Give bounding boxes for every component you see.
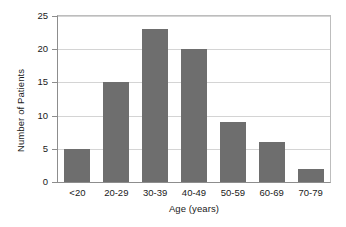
y-tick-label: 25	[20, 11, 48, 21]
bar-layer	[58, 16, 330, 182]
y-tick-15	[52, 82, 57, 83]
y-tick-label: 10	[20, 111, 48, 121]
y-tick-0	[52, 182, 57, 183]
y-tick-20	[52, 49, 57, 50]
y-tick-label: 15	[20, 77, 48, 87]
bar	[142, 29, 168, 182]
y-tick-label: 0	[20, 177, 48, 187]
bar	[103, 82, 129, 182]
x-tick-label: 70-79	[285, 187, 337, 198]
bar	[181, 49, 207, 182]
y-tick-label: 20	[20, 44, 48, 54]
x-axis-title: Age (years)	[57, 203, 331, 214]
bar-chart-figure: Number of Patients Age (years) 051015202…	[0, 0, 346, 227]
y-axis-title: Number of Patients	[14, 0, 28, 152]
y-tick-25	[52, 16, 57, 17]
bar	[64, 149, 90, 182]
y-tick-label: 5	[20, 144, 48, 154]
y-tick-10	[52, 116, 57, 117]
bar	[259, 142, 285, 182]
bar	[220, 122, 246, 182]
plot-area	[57, 15, 331, 183]
bar	[298, 169, 324, 182]
y-tick-5	[52, 149, 57, 150]
